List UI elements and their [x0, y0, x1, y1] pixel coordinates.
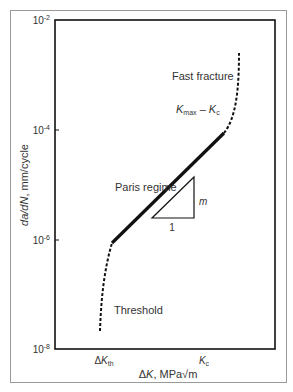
y-axis-label: da/dN, mm/cycle [18, 144, 30, 226]
kmax-kc-label: Kmax – Kc [176, 103, 220, 116]
y-tick-1e-4: 10-4 [33, 124, 50, 136]
slope-m-label: m [199, 196, 207, 207]
threshold-curve [100, 243, 112, 331]
x-tick-kc: Kc [199, 355, 210, 367]
fast-fracture-label: Fast fracture [172, 70, 234, 82]
paris-regime-label: Paris regime [115, 181, 177, 193]
fast-fracture-curve [224, 53, 239, 133]
slope-1-label: 1 [169, 222, 175, 233]
y-tick-labels: 10-2 10-4 10-6 10-8 [33, 14, 50, 355]
threshold-label: Threshold [114, 304, 163, 316]
x-axis-label: ΔK, MPa√m [139, 368, 198, 380]
y-tick-1e-6: 10-6 [33, 234, 50, 246]
x-tick-delta-k-th: ΔKth [94, 355, 113, 367]
y-tick-1e-2: 10-2 [33, 14, 50, 26]
y-tick-1e-8: 10-8 [33, 343, 50, 355]
fatigue-crack-growth-chart: 10-2 10-4 10-6 10-8 da/dN, mm/cycle ΔKth… [0, 0, 293, 392]
